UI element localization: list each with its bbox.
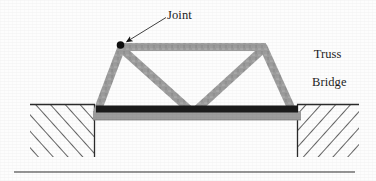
caption-line-bridge: Bridge: [301, 75, 347, 89]
figure-caption: Truss Bridge: [301, 33, 347, 117]
truss-bridge-figure: Joint Truss Bridge: [0, 0, 376, 181]
joint-label: Joint: [167, 8, 192, 22]
truss-member-right-end-post: [263, 46, 293, 112]
caption-line-truss: Truss: [314, 47, 342, 61]
joint-marker-dot: [117, 41, 125, 49]
joint-leader-line: [127, 18, 166, 42]
deck-dark-bar: [96, 106, 298, 113]
truss-members: [97, 46, 293, 112]
bridge-deck: [93, 106, 301, 121]
truss-member-left-end-post: [97, 46, 122, 112]
ground-left-block: [30, 105, 95, 158]
truss-member-web-left: [123, 50, 192, 112]
truss-member-web-right: [194, 50, 262, 112]
